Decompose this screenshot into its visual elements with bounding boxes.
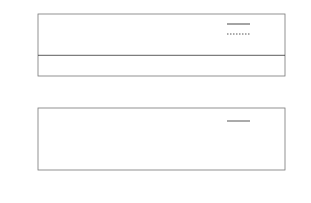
top-plot-frame <box>38 14 285 76</box>
top-plot <box>38 14 285 76</box>
bottom-plot-frame <box>38 108 285 170</box>
top-legend <box>227 24 250 34</box>
figure <box>0 0 311 203</box>
bottom-plot <box>38 108 285 170</box>
